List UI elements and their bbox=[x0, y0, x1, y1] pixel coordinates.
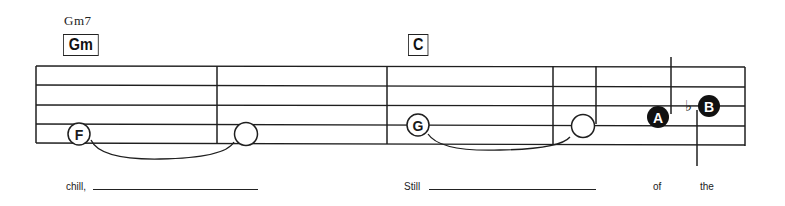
note-letter-g: G bbox=[413, 118, 424, 134]
note-letter-b: B bbox=[704, 99, 714, 115]
lyric-blank-1 bbox=[93, 189, 258, 190]
note-letter-f: F bbox=[75, 127, 84, 143]
lyric-of: of bbox=[653, 181, 661, 192]
note-f: F bbox=[68, 123, 90, 145]
staff: F G A ♭ B bbox=[0, 0, 785, 206]
note-a: A bbox=[647, 57, 671, 128]
note-open-half bbox=[572, 66, 597, 138]
note-g: G bbox=[407, 114, 429, 136]
lyric-still: Still bbox=[404, 181, 420, 192]
lyric-chill: chill, bbox=[66, 181, 86, 192]
lyric-blank-2 bbox=[429, 189, 596, 190]
tie-g bbox=[428, 134, 570, 150]
flat-icon: ♭ bbox=[685, 97, 692, 114]
lyric-the: the bbox=[700, 181, 714, 192]
note-open-whole bbox=[235, 123, 258, 146]
staff-lines bbox=[36, 66, 745, 145]
note-b: ♭ B bbox=[685, 95, 721, 166]
note-letter-a: A bbox=[653, 110, 663, 126]
music-score: Gm7 Gm C F bbox=[0, 0, 785, 206]
